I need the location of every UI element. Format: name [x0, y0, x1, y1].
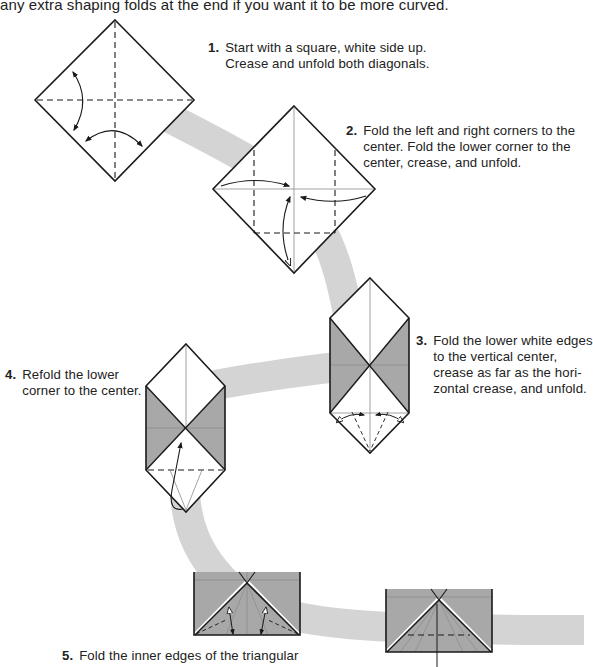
step-line: corner to the center.: [22, 383, 141, 399]
step-line: center, crease, and unfold.: [363, 155, 575, 171]
step-line: center. Fold the lower corner to the: [363, 139, 575, 155]
step-line: Start with a square, white side up.: [225, 40, 429, 56]
step-5-diagram: [194, 572, 300, 635]
step-1-diagram: [35, 20, 194, 181]
step-2-instruction: 2. Fold the left and right corners to th…: [346, 123, 575, 171]
intro-text: any extra shaping folds at the end if yo…: [0, 0, 449, 13]
step-line: to the vertical center,: [433, 349, 592, 365]
step-line: Fold the inner edges of the triangular: [79, 648, 298, 664]
step-number: 3.: [416, 333, 427, 397]
step-1-instruction: 1. Start with a square, white side up. C…: [208, 40, 429, 72]
step-number: 5.: [62, 648, 73, 664]
step-6-diagram: [386, 589, 492, 667]
step-line: zontal crease, and unfold.: [433, 381, 592, 397]
step-number: 2.: [346, 123, 357, 171]
step-line: Fold the left and right corners to the: [363, 123, 575, 139]
step-4-diagram: [146, 344, 225, 512]
step-3-instruction: 3. Fold the lower white edges to the ver…: [416, 333, 593, 397]
step-line: Fold the lower white edges: [433, 333, 592, 349]
step-5-instruction: 5. Fold the inner edges of the triangula…: [62, 648, 299, 664]
step-4-instruction: 4. Refold the lower corner to the center…: [5, 367, 142, 399]
step-line: crease as far as the hori-: [433, 365, 592, 381]
step-line: Refold the lower: [22, 367, 141, 383]
step-line: Crease and unfold both diagonals.: [225, 56, 429, 72]
step-number: 4.: [5, 367, 16, 399]
step-number: 1.: [208, 40, 219, 72]
